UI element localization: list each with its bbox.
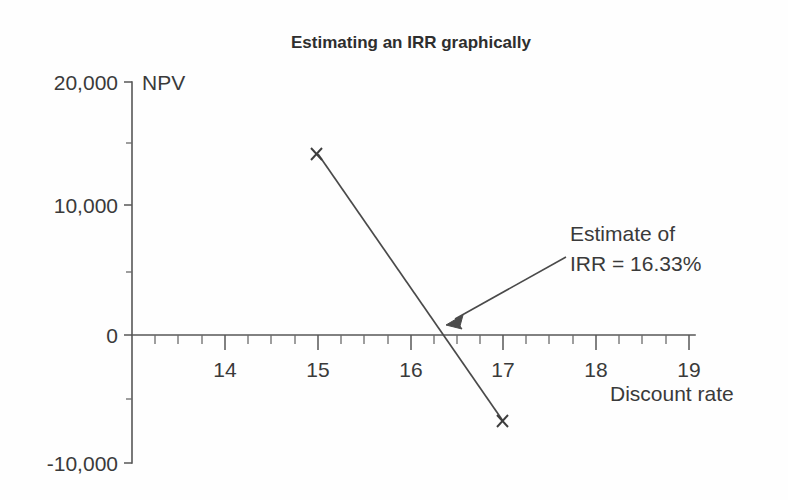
x-tick-label-15: 15 [306,358,329,381]
y-tick-label-0: 0 [106,324,118,347]
x-tick-label-16: 16 [399,358,422,381]
chart-figure: Estimating an IRR graphically 20,000 10,… [0,0,788,500]
data-point-marker-15 [311,148,322,160]
x-tick-label-17: 17 [491,358,514,381]
chart-title: Estimating an IRR graphically [291,33,531,52]
x-axis-label: Discount rate [610,382,734,405]
annotation-line-2: IRR = 16.33% [570,252,701,275]
annotation-line-1: Estimate of [570,222,675,245]
y-tick-label-20000: 20,000 [54,71,118,94]
y-tick-label-10000: 10,000 [54,194,118,217]
x-tick-label-19: 19 [677,358,700,381]
callout-arrow-head-icon [446,315,463,329]
irr-line-chart: Estimating an IRR graphically 20,000 10,… [0,0,788,500]
y-axis-label: NPV [142,71,185,94]
x-tick-label-18: 18 [584,358,607,381]
y-tick-label-neg10000: -10,000 [47,452,118,475]
data-point-marker-17 [497,415,508,427]
callout-arrow-shaft [455,257,566,319]
x-tick-label-14: 14 [213,358,237,381]
